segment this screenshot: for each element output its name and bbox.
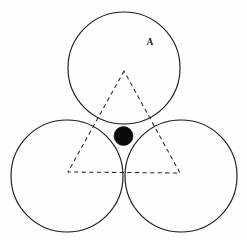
center-dot bbox=[114, 127, 133, 146]
figure-label-a: A bbox=[146, 37, 153, 47]
figure-background bbox=[0, 0, 247, 240]
figure-canvas: A bbox=[0, 0, 247, 240]
diagram-svg: A bbox=[0, 0, 247, 240]
